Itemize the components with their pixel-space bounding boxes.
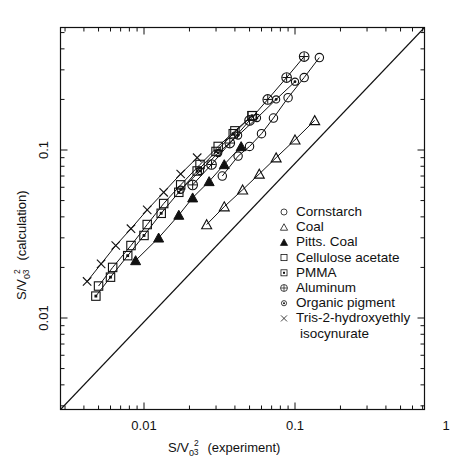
- legend-item-isocynurate[interactable]: isocynurate: [300, 326, 369, 341]
- loglog-scatter-plot: 0.010.110.010.11S/V023(experiment)S/V023…: [0, 0, 460, 473]
- legend-marker-cross: [281, 315, 287, 321]
- legend-item-organic-pigment[interactable]: Organic pigment: [281, 295, 395, 310]
- legend-marker-crossed-circle: [281, 285, 288, 292]
- legend-label: Organic pigment: [296, 295, 395, 310]
- legend-label: Cellulose acetate: [296, 250, 400, 265]
- legend: CornstarchCoalPitts. CoalCellulose aceta…: [280, 204, 410, 341]
- legend-marker-open-triangle: [280, 224, 287, 230]
- y-tick-label-0: 0.01: [36, 305, 51, 330]
- series-organic-pigment: [177, 78, 299, 193]
- x-tick-label-0: 0.01: [131, 418, 156, 433]
- chart-figure: 0.010.110.010.11S/V023(experiment)S/V023…: [0, 0, 460, 473]
- legend-marker-dotted-circle: [281, 301, 286, 306]
- legend-label: isocynurate: [300, 326, 369, 341]
- legend-item-pitts-coal[interactable]: Pitts. Coal: [280, 234, 357, 249]
- legend-item-coal[interactable]: Coal: [280, 219, 323, 234]
- y-tick-label-1: 0.1: [36, 141, 51, 159]
- legend-label: Aluminum: [296, 280, 356, 295]
- legend-marker-filled-triangle: [280, 239, 287, 245]
- y-axis-title-text: S/V023(calculation): [12, 190, 32, 300]
- data-series-group: [83, 52, 324, 301]
- y-axis-tick-labels: 0.010.11: [36, 0, 51, 331]
- x-axis-title-text: S/V023(experiment): [168, 438, 280, 458]
- legend-label: Cornstarch: [296, 204, 362, 219]
- legend-label: PMMA: [296, 265, 337, 280]
- one-to-one-line: [61, 28, 425, 410]
- legend-marker-open-square: [281, 255, 287, 261]
- legend-label: Pitts. Coal: [296, 234, 358, 249]
- legend-marker-open-circle: [281, 209, 287, 215]
- series-aluminum: [188, 52, 309, 190]
- legend-item-aluminum[interactable]: Aluminum: [281, 280, 356, 295]
- x-tick-label-1: 0.1: [286, 418, 304, 433]
- legend-item-pmma[interactable]: PMMA: [281, 265, 337, 280]
- series-pitts-coal: [131, 142, 247, 265]
- legend-item-tris-2-hydroxyethly[interactable]: Tris-2-hydroxyethly: [281, 310, 411, 325]
- x-tick-label-2: 1: [442, 418, 449, 433]
- legend-label: Coal: [296, 219, 324, 234]
- y-axis-title: S/V023(calculation): [12, 190, 32, 300]
- series-cornstarch: [218, 53, 323, 180]
- legend-item-cornstarch[interactable]: Cornstarch: [281, 204, 362, 219]
- x-axis-title: S/V023(experiment): [168, 438, 280, 458]
- legend-label: Tris-2-hydroxyethly: [296, 310, 411, 325]
- legend-item-cellulose-acetate[interactable]: Cellulose acetate: [281, 250, 400, 265]
- legend-marker-dotted-square: [281, 270, 287, 276]
- x-axis-tick-labels: 0.010.11: [131, 418, 449, 433]
